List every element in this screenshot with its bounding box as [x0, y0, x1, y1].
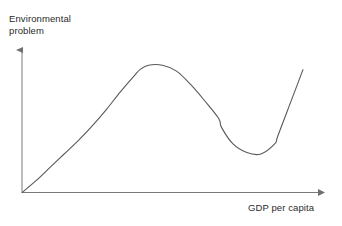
kuznets-curve-figure: Environmentalproblem GDP per capita	[0, 0, 342, 226]
x-axis-label: GDP per capita	[248, 202, 314, 214]
y-axis-label-line1: Environmental	[9, 13, 71, 24]
y-axis-label-line2: problem	[9, 25, 44, 36]
y-axis-label: Environmentalproblem	[9, 13, 71, 37]
kuznets-curve-line	[22, 65, 303, 193]
